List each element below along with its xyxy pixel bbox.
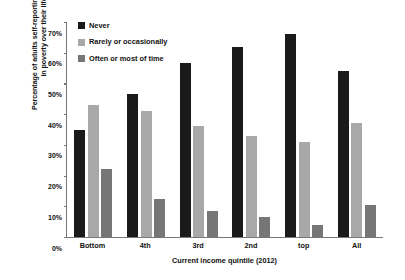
bar[interactable] (101, 169, 112, 237)
y-axis-tick-label: 10% (48, 214, 67, 221)
legend-swatch-icon (78, 22, 85, 29)
bar[interactable] (193, 126, 204, 237)
bar-group (225, 22, 278, 237)
y-axis-tick-label: 50% (48, 91, 67, 98)
x-axis-tick-label: 2nd (224, 241, 277, 250)
bar-group (330, 22, 383, 237)
bar[interactable] (338, 71, 349, 237)
x-axis-tick-label: Bottom (66, 241, 119, 250)
y-axis-tick-label: 0% (52, 245, 67, 252)
bar-chart: Percentage of adults self-reporting as b… (0, 0, 405, 280)
legend-label: Often or most of time (89, 55, 164, 62)
bar-group (278, 22, 331, 237)
y-axis-tick-label: 70% (48, 30, 67, 37)
y-axis-tick-label: 30% (48, 152, 67, 159)
bar[interactable] (127, 94, 138, 237)
bar[interactable] (299, 142, 310, 237)
chart-legend: NeverRarely or occasionallyOften or most… (78, 22, 167, 62)
bar[interactable] (285, 34, 296, 237)
y-axis-title: Percentage of adults self-reporting as b… (25, 0, 55, 137)
bar[interactable] (259, 217, 270, 237)
bar[interactable] (232, 47, 243, 237)
y-axis-title-line-1: Percentage of adults self-reporting as b… (31, 0, 41, 110)
bar-group (172, 22, 225, 237)
x-axis-tick-label: All (330, 241, 383, 250)
legend-swatch-icon (78, 55, 85, 62)
legend-label: Never (89, 22, 110, 29)
legend-swatch-icon (78, 39, 85, 46)
x-axis-tick-label: top (277, 241, 330, 250)
x-axis-tick-labels: Bottom4th3rd2ndtopAll (66, 241, 383, 250)
legend-item[interactable]: Often or most of time (78, 55, 167, 62)
x-axis-tick-label: 3rd (172, 241, 225, 250)
y-axis-tick-label: 40% (48, 122, 67, 129)
bar[interactable] (312, 225, 323, 237)
y-axis-tick-label: 20% (48, 183, 67, 190)
legend-label: Rarely or occasionally (89, 38, 167, 45)
bar[interactable] (141, 111, 152, 237)
bar[interactable] (88, 105, 99, 237)
bar[interactable] (246, 136, 257, 237)
y-axis-tick-mark (64, 237, 67, 238)
x-axis-title: Current income quintile (2012) (66, 256, 383, 265)
bar[interactable] (365, 205, 376, 237)
bar[interactable] (351, 123, 362, 237)
x-axis-tick-label: 4th (119, 241, 172, 250)
y-axis-tick-label: 60% (48, 60, 67, 67)
legend-item[interactable]: Never (78, 22, 167, 29)
legend-item[interactable]: Rarely or occasionally (78, 38, 167, 45)
bar[interactable] (154, 199, 165, 237)
bar[interactable] (207, 211, 218, 237)
bar[interactable] (180, 63, 191, 237)
bar[interactable] (74, 130, 85, 238)
